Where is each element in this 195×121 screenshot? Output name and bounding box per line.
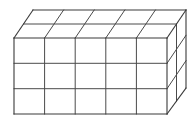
rectangular-prism-diagram <box>0 0 195 121</box>
front-face-fill <box>14 38 167 114</box>
front-face <box>14 38 167 114</box>
figure-container <box>0 0 195 121</box>
